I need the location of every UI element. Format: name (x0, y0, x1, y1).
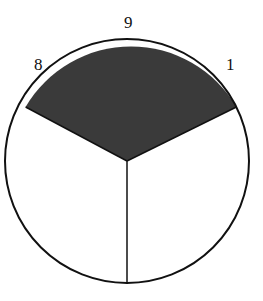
spinner-diagram: 8 9 1 (0, 0, 263, 301)
label-1: 1 (226, 55, 235, 74)
label-8: 8 (34, 55, 43, 74)
shaded-sector (26, 46, 237, 161)
label-9: 9 (124, 13, 133, 32)
